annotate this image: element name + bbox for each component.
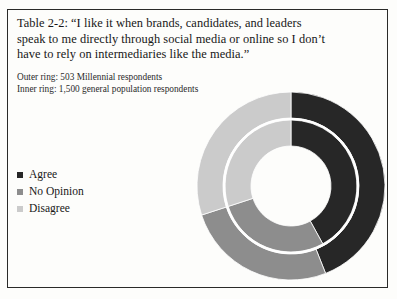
- legend-swatch-disagree: [17, 206, 23, 212]
- outer-ring-note: Outer ring: 503 Millennial respondents: [17, 72, 277, 84]
- legend-item-no-opinion: No Opinion: [17, 183, 157, 200]
- legend-item-agree: Agree: [17, 166, 157, 183]
- legend-label-no-opinion: No Opinion: [29, 186, 84, 198]
- donut-chart-svg: [190, 85, 392, 287]
- legend-swatch-agree: [17, 172, 23, 178]
- legend-label-agree: Agree: [29, 169, 57, 181]
- page-title: Table 2-2: “I like it when brands, candi…: [17, 16, 327, 63]
- legend-label-disagree: Disagree: [29, 203, 70, 215]
- figure-container: Table 2-2: “I like it when brands, candi…: [0, 0, 397, 299]
- legend-swatch-no-opinion: [17, 189, 23, 195]
- chart-legend: Agree No Opinion Disagree: [17, 166, 157, 217]
- legend-item-disagree: Disagree: [17, 200, 157, 217]
- nested-donut-chart: [190, 85, 392, 287]
